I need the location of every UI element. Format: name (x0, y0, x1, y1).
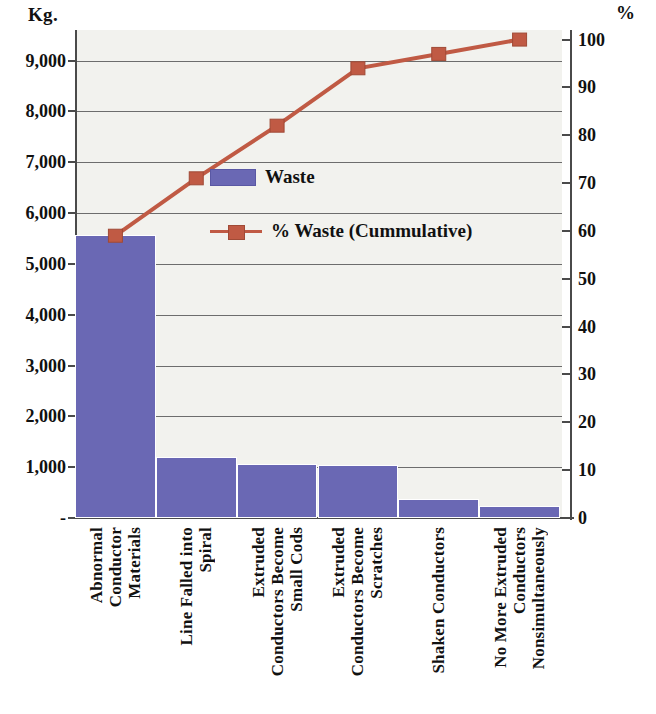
cumulative-line-marker (351, 62, 365, 75)
cumulative-line-marker (513, 33, 527, 46)
cumulative-line-marker (189, 172, 203, 185)
category-label-line: No More Extruded (492, 527, 509, 668)
category-label: ExtrudedConductors BecomeSmall Cods (237, 527, 318, 712)
category-label-line: Extruded (250, 527, 267, 598)
category-label-line: Spiral (197, 527, 214, 573)
legend-entry-waste[interactable]: Waste (210, 166, 315, 188)
category-label-line: Abnormal (88, 527, 105, 603)
category-label-line: Conductors Become (349, 527, 366, 676)
category-label: AbnormalConductorMaterials (75, 527, 156, 712)
cumulative-line-swatch (210, 224, 262, 238)
category-label-line: Extruded (330, 527, 347, 598)
category-label-line: Conductor (107, 527, 124, 607)
cumulative-line-marker (432, 47, 446, 60)
category-label: Shaken Conductors (398, 527, 479, 712)
category-label-line: Materials (126, 527, 143, 599)
cumulative-line-marker (270, 119, 284, 132)
cumulative-line-path (115, 40, 519, 236)
category-label-line: Conductors (511, 527, 528, 614)
cumulative-line-marker (108, 229, 122, 242)
category-label-line: Line Falled into (178, 527, 195, 645)
legend-square-marker-icon (228, 225, 245, 240)
legend-label-waste: Waste (265, 166, 315, 188)
category-label-line: Shaken Conductors (430, 527, 447, 674)
pareto-chart: Kg. % 9,0008,0007,0006,0005,0004,0003,00… (0, 0, 656, 714)
waste-color-swatch (210, 169, 256, 186)
legend-entry-cumulative[interactable]: % Waste (Cummulative) (210, 220, 472, 242)
category-label-line: Nonsimultaneously (530, 527, 547, 669)
category-label: ExtrudedConductors BecomeScratches (318, 527, 399, 712)
category-label-line: Small Cods (288, 527, 305, 612)
category-label-line: Scratches (368, 527, 385, 599)
category-label: No More ExtrudedConductorsNonsimultaneou… (479, 527, 560, 712)
legend-label-cumulative: % Waste (Cummulative) (271, 220, 472, 242)
category-label: Line Falled intoSpiral (156, 527, 237, 712)
category-label-line: Conductors Become (269, 527, 286, 676)
